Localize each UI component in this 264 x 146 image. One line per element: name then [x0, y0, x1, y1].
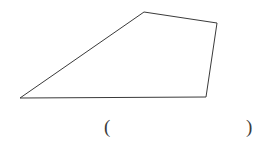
answer-blank[interactable]: [114, 114, 244, 140]
close-paren: ): [246, 114, 252, 140]
open-paren: (: [104, 114, 110, 140]
quadrilateral-outline: [20, 12, 217, 98]
answer-parenthesis-row: ( ): [0, 114, 264, 140]
figure-page: ( ): [0, 0, 264, 146]
